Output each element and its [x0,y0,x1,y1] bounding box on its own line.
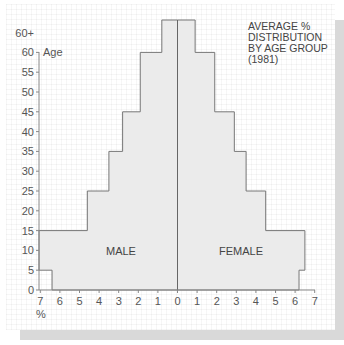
x-tick-label: 4 [96,295,102,307]
y-tick-label: 45 [22,106,34,118]
y-tick-label: 5 [28,264,34,276]
x-axis-label: % [36,308,46,320]
y-tick-label: 25 [22,185,34,197]
x-tick-label: 6 [57,295,63,307]
x-tick-label: 3 [116,295,122,307]
y-tick-label: 60+ [15,27,34,39]
title-line: (1981) [248,53,278,65]
y-tick-label: 55 [22,66,34,78]
x-tick-label: 1 [155,295,161,307]
y-tick-label: 0 [28,284,34,296]
y-tick-label: 35 [22,145,34,157]
y-tick-label: 60 [22,46,34,58]
x-tick-label: 7 [37,295,43,307]
population-pyramid-chart: 05101520253035404550556060+7654321012345… [0,0,344,345]
y-tick-label: 30 [22,165,34,177]
x-tick-label: 7 [312,295,318,307]
female-label: FEMALE [219,245,263,257]
x-tick-label: 3 [233,295,239,307]
x-tick-label: 2 [135,295,141,307]
y-tick-label: 20 [22,205,34,217]
x-tick-label: 4 [253,295,259,307]
x-tick-label: 2 [214,295,220,307]
x-tick-label: 5 [76,295,82,307]
male-label: MALE [106,245,136,257]
x-tick-label: 5 [272,295,278,307]
x-tick-label: 1 [194,295,200,307]
chart-title: AVERAGE %DISTRIBUTIONBY AGE GROUP(1981) [248,20,328,65]
x-tick-label: 6 [292,295,298,307]
y-tick-label: 15 [22,225,34,237]
y-tick-label: 40 [22,126,34,138]
y-axis-label: Age [43,46,63,58]
x-tick-label: 0 [174,295,180,307]
y-tick-label: 50 [22,86,34,98]
y-tick-label: 10 [22,244,34,256]
